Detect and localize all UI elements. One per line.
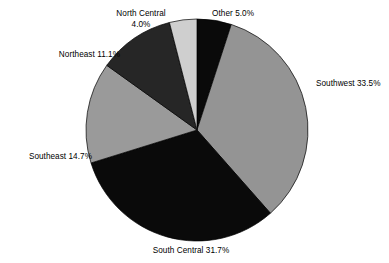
pie-label-northeast-text: Northeast 11.1% [59,50,120,59]
pie-label-southeast: Southeast 14.7% [8,152,92,163]
pie-label-south-central: South Central 31.7% [131,246,251,257]
pie-label-north-central-line2: 4.0% [132,20,151,29]
pie-chart-canvas [0,0,389,263]
pie-label-other: Other 5.0% [190,9,254,20]
pie-label-south-central-text: South Central 31.7% [153,246,230,255]
pie-label-southwest-text: Southwest 33.5% [316,79,380,88]
pie-label-other-text: Other 5.0% [212,9,254,18]
pie-label-southwest: Southwest 33.5% [316,79,388,90]
pie-chart-figure: North Central 4.0% Other 5.0% Northeast … [0,0,389,263]
pie-label-north-central: North Central 4.0% [108,9,174,30]
pie-label-southeast-text: Southeast 14.7% [29,152,92,161]
pie-label-northeast: Northeast 11.1% [36,50,120,61]
pie-label-north-central-line1: North Central [116,9,165,18]
